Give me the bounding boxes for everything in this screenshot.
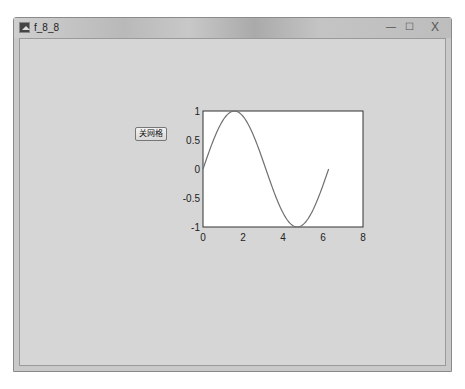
x-tick-label: 8 [360, 232, 366, 243]
axes-box [203, 111, 363, 227]
x-tick-label: 4 [280, 232, 286, 243]
y-tick-label: 1 [194, 106, 200, 117]
x-tick-label: 6 [320, 232, 326, 243]
y-tick-label: -0.5 [183, 193, 201, 204]
x-tick-labels: 02468 [200, 232, 366, 243]
plot-axes[interactable]: 10.50-0.5-1 02468 [0, 0, 465, 389]
y-tick-label: -1 [191, 222, 200, 233]
y-tick-labels: 10.50-0.5-1 [183, 106, 201, 233]
y-tick-label: 0 [194, 164, 200, 175]
x-tick-label: 0 [200, 232, 206, 243]
x-tick-label: 2 [240, 232, 246, 243]
y-tick-label: 0.5 [186, 135, 200, 146]
